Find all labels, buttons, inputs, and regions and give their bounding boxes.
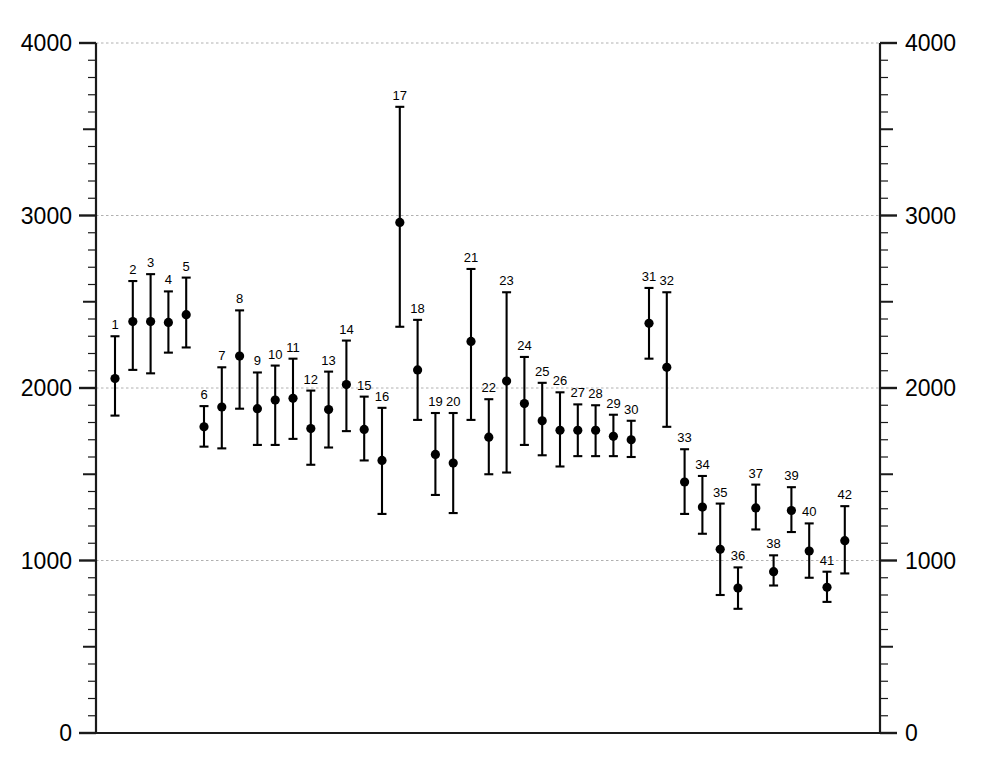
right-tick-label-3000: 3000: [905, 203, 956, 229]
data-point-2: [128, 281, 137, 370]
gridlines: [96, 43, 880, 561]
point-label-17: 17: [393, 88, 407, 103]
point-label-18: 18: [410, 301, 424, 316]
data-point-13: [324, 372, 333, 448]
marker-28: [591, 426, 600, 435]
marker-31: [644, 319, 653, 328]
marker-15: [360, 425, 369, 434]
point-label-23: 23: [499, 273, 513, 288]
data-point-41: [822, 572, 831, 602]
left-tick-label-1000: 1000: [21, 548, 72, 574]
marker-13: [324, 405, 333, 414]
left-tick-label-3000: 3000: [21, 203, 72, 229]
data-point-5: [182, 278, 191, 348]
point-label-6: 6: [200, 387, 207, 402]
point-label-19: 19: [428, 394, 442, 409]
marker-24: [520, 399, 529, 408]
marker-23: [502, 377, 511, 386]
left-tick-label-2000: 2000: [21, 375, 72, 401]
marker-38: [769, 567, 778, 576]
marker-42: [840, 536, 849, 545]
marker-32: [662, 363, 671, 372]
marker-22: [484, 433, 493, 442]
marker-26: [555, 426, 564, 435]
point-label-38: 38: [766, 536, 780, 551]
marker-4: [164, 318, 173, 327]
point-label-37: 37: [749, 466, 763, 481]
data-point-15: [360, 397, 369, 461]
point-label-33: 33: [677, 430, 691, 445]
data-point-34: [698, 476, 707, 534]
marker-16: [377, 456, 386, 465]
data-point-17: [395, 107, 404, 327]
point-label-7: 7: [218, 348, 225, 363]
data-point-39: [787, 487, 796, 532]
point-label-15: 15: [357, 378, 371, 393]
left-tick-label-4000: 4000: [21, 30, 72, 56]
point-label-31: 31: [642, 269, 656, 284]
data-point-32: [662, 292, 671, 427]
data-point-31: [644, 288, 653, 359]
left-tick-label-0: 0: [59, 720, 72, 746]
point-label-41: 41: [820, 553, 834, 568]
point-label-16: 16: [375, 389, 389, 404]
data-point-42: [840, 506, 849, 573]
marker-41: [822, 583, 831, 592]
error-bar-chart: 0100020003000400001000200030004000 12345…: [0, 0, 981, 777]
data-point-29: [609, 415, 618, 456]
data-point-3: [146, 274, 155, 373]
data-point-12: [306, 391, 315, 465]
marker-34: [698, 502, 707, 511]
point-label-1: 1: [111, 317, 118, 332]
data-point-33: [680, 449, 689, 514]
point-label-29: 29: [606, 396, 620, 411]
marker-40: [805, 546, 814, 555]
point-label-25: 25: [535, 364, 549, 379]
point-label-4: 4: [165, 272, 172, 287]
data-point-28: [591, 405, 600, 456]
point-label-28: 28: [588, 386, 602, 401]
marker-14: [342, 380, 351, 389]
point-label-5: 5: [183, 259, 190, 274]
data-point-labels: 1234567891011121314151617181920212223242…: [111, 88, 852, 568]
data-point-19: [431, 413, 440, 495]
point-label-12: 12: [304, 372, 318, 387]
marker-21: [466, 337, 475, 346]
point-label-32: 32: [660, 273, 674, 288]
data-point-8: [235, 310, 244, 408]
point-label-13: 13: [321, 353, 335, 368]
point-label-39: 39: [784, 468, 798, 483]
data-point-21: [466, 269, 475, 420]
point-label-22: 22: [482, 380, 496, 395]
point-label-8: 8: [236, 291, 243, 306]
marker-29: [609, 432, 618, 441]
marker-36: [733, 584, 742, 593]
marker-3: [146, 317, 155, 326]
data-point-11: [288, 359, 297, 439]
marker-25: [538, 416, 547, 425]
data-point-35: [716, 504, 725, 595]
point-label-11: 11: [286, 340, 300, 355]
chart-page: 0100020003000400001000200030004000 12345…: [0, 0, 981, 777]
marker-9: [253, 404, 262, 413]
marker-8: [235, 351, 244, 360]
marker-7: [217, 402, 226, 411]
point-label-20: 20: [446, 394, 460, 409]
point-label-3: 3: [147, 255, 154, 270]
right-tick-label-4000: 4000: [905, 30, 956, 56]
right-tick-label-0: 0: [905, 720, 918, 746]
point-label-10: 10: [268, 347, 282, 362]
point-label-14: 14: [339, 322, 353, 337]
point-label-30: 30: [624, 402, 638, 417]
point-label-35: 35: [713, 485, 727, 500]
point-label-21: 21: [464, 250, 478, 265]
data-point-4: [164, 291, 173, 352]
data-point-7: [217, 367, 226, 448]
point-label-34: 34: [695, 457, 709, 472]
data-point-10: [271, 366, 280, 445]
point-label-2: 2: [129, 262, 136, 277]
data-point-37: [751, 485, 760, 530]
right-tick-label-1000: 1000: [905, 548, 956, 574]
data-point-22: [484, 399, 493, 474]
point-label-42: 42: [838, 487, 852, 502]
